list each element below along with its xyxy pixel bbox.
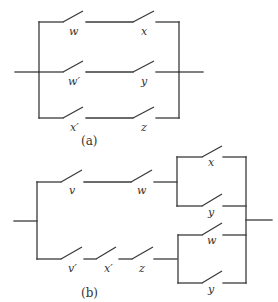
- branch-a-3: x′ z: [39, 107, 179, 134]
- switching-circuit-diagram: w x w′ y x′ z (a): [0, 0, 278, 302]
- switch-w-prime: [63, 61, 83, 72]
- switch-w: [131, 170, 152, 182]
- switch-label: v: [69, 184, 76, 197]
- branch-b-2-parallel: w y: [178, 223, 246, 296]
- switch-label: w′: [68, 75, 80, 88]
- switch-z: [132, 247, 153, 259]
- switch-v-prime: [61, 247, 82, 259]
- branch-b-1-parallel: x y: [177, 146, 246, 219]
- caption-a: (a): [81, 134, 98, 148]
- branch-a-2: w′ y: [39, 61, 179, 88]
- switch-label: z: [140, 121, 147, 134]
- switch-x: [133, 11, 154, 22]
- switch-label: y: [207, 206, 215, 219]
- switch-label: y: [207, 283, 215, 296]
- branch-a-1: w x: [39, 11, 179, 38]
- switch-label: x: [141, 25, 148, 38]
- switch-v: [61, 170, 82, 182]
- branch-b-1-series: v w: [37, 170, 177, 197]
- switch-z: [133, 107, 154, 118]
- caption-b: (b): [81, 286, 98, 300]
- switch-x-prime: [63, 107, 83, 118]
- circuit-a: w x w′ y x′ z (a): [15, 11, 203, 148]
- branch-b-2-series: v′ x′ z: [37, 247, 177, 275]
- switch-label: x′: [104, 262, 113, 275]
- switch-label: w: [207, 234, 217, 247]
- switch-label: w: [137, 184, 147, 197]
- switch-w: [63, 11, 83, 22]
- switch-y: [202, 194, 222, 206]
- circuit-b: v w x y v′ x′ z: [14, 146, 272, 300]
- switch-label: v′: [68, 262, 77, 275]
- switch-label: w: [69, 25, 79, 38]
- switch-x-prime: [96, 247, 116, 259]
- switch-y: [133, 61, 154, 72]
- switch-y: [202, 271, 222, 283]
- switch-label: x′: [70, 121, 79, 134]
- switch-label: x: [208, 156, 215, 169]
- switch-label: y: [140, 75, 148, 88]
- switch-label: z: [138, 262, 145, 275]
